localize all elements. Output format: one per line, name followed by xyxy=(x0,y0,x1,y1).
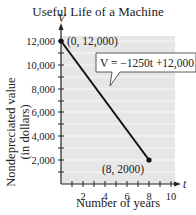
y-tick-label: 4,000 xyxy=(31,131,55,142)
y-axis-label-line2: (in dollars) xyxy=(18,62,32,202)
point-label-end: (8, 2000) xyxy=(102,163,144,176)
y-tick-label: 2,000 xyxy=(31,155,55,166)
data-point-start xyxy=(58,38,63,43)
y-tick-label: 12,000 xyxy=(26,36,55,47)
data-point-end xyxy=(146,157,151,162)
point-label-start: (0, 12,000) xyxy=(67,35,118,48)
x-axis-arrow xyxy=(174,182,181,187)
y-tick-label: 6,000 xyxy=(31,107,55,118)
y-axis-label-line1: Nondepreciated value xyxy=(4,62,18,202)
y-axis-label: Nondepreciated value (in dollars) xyxy=(4,62,32,202)
equation-label: V = −1250t +12,000 xyxy=(100,57,194,70)
x-axis-label: Number of years xyxy=(58,196,178,211)
y-tick-label: 8,000 xyxy=(31,84,55,95)
x-axis-symbol: t xyxy=(183,178,187,190)
y-axis-symbol: V xyxy=(58,12,67,24)
y-axis-arrow xyxy=(59,23,64,30)
